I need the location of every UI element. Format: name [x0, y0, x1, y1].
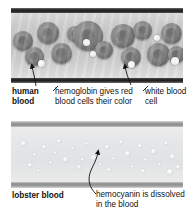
hemocyanin-speck: [71, 147, 74, 150]
label-hemoglobin: hemoglobin gives red blood cells their c…: [55, 87, 149, 106]
hemocyanin-speck: [158, 163, 161, 166]
hemocyanin-speck: [164, 141, 168, 145]
hemocyanin-speck: [105, 145, 109, 149]
white-blood-cell: [83, 39, 90, 46]
label-white-blood-cell: white blood cell: [145, 87, 187, 106]
red-blood-cell: [25, 47, 44, 66]
red-blood-cell: [161, 23, 182, 44]
red-blood-cell: [13, 31, 33, 51]
hemocyanin-speck: [63, 157, 68, 162]
hemocyanin-speck: [99, 163, 102, 166]
red-blood-cell: [67, 26, 83, 42]
hemocyanin-speck: [176, 165, 180, 169]
label-lobster-blood: lobster blood: [12, 191, 64, 201]
white-blood-cell: [128, 61, 135, 68]
label-hemocyanin: hemocyanin is dissolved in the blood: [96, 190, 187, 209]
hemocyanin-speck: [125, 151, 130, 156]
hemocyanin-speck: [49, 161, 52, 164]
lobster-blood-vessel-panel: [11, 121, 183, 188]
vessel-wall-bottom: [11, 182, 183, 188]
vessel-wall-bottom: [11, 78, 183, 83]
hemocyanin-speck: [138, 144, 142, 148]
hemocyanin-speck: [144, 158, 147, 161]
red-blood-cell: [111, 24, 135, 48]
red-blood-cell: [95, 41, 113, 59]
label-human-blood: human blood: [12, 87, 52, 106]
white-blood-cell: [171, 57, 179, 65]
red-blood-cell: [73, 21, 103, 51]
hemocyanin-speck: [57, 139, 61, 143]
red-blood-cell: [37, 22, 59, 44]
hemocyanin-speck: [54, 151, 57, 154]
hemocyanin-speck: [42, 145, 46, 149]
hemocyanin-speck: [141, 169, 145, 173]
hemocyanin-speck: [107, 168, 111, 172]
red-blood-cell: [147, 43, 170, 66]
human-blood-plasma: [11, 13, 183, 78]
white-blood-cell: [90, 51, 96, 57]
hemocyanin-speck: [77, 165, 81, 169]
hemocyanin-speck: [91, 155, 96, 160]
white-blood-cell: [38, 60, 45, 67]
hemocyanin-speck: [167, 169, 173, 175]
hemocyanin-speck: [170, 154, 175, 159]
red-blood-cell: [121, 47, 141, 67]
human-blood-vessel-panel: [11, 8, 183, 83]
red-blood-cell: [51, 43, 72, 64]
hemocyanin-speck: [131, 165, 134, 168]
hemocyanin-speck: [112, 157, 115, 160]
red-blood-cell: [168, 46, 183, 63]
hemocyanin-speck: [37, 169, 40, 172]
hemocyanin-speck: [21, 141, 26, 146]
hemocyanin-speck: [81, 158, 84, 161]
hemocyanin-speck: [151, 149, 156, 154]
hemocyanin-speck: [33, 153, 36, 156]
hemocyanin-speck: [28, 163, 32, 167]
blood-comparison-figure: human blood hemoglobin gives red blood c…: [0, 0, 187, 214]
red-blood-cell: [133, 21, 152, 40]
lobster-blood-plasma: [11, 127, 183, 182]
white-blood-cell: [154, 35, 160, 41]
hemocyanin-speck: [119, 140, 123, 144]
hemocyanin-speck: [85, 142, 88, 145]
